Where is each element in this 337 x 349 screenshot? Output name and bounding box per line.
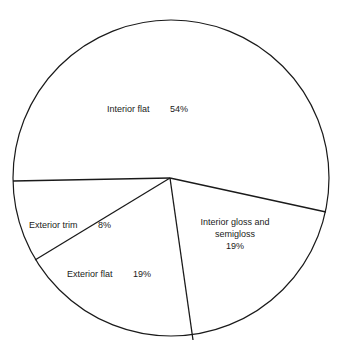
slice-name: Exterior trim [29,220,78,230]
slice-label-interior-flat: Interior flat 54% [107,104,188,114]
slice-name-line1: Interior gloss and [190,216,280,228]
slice-label-exterior-flat: Exterior flat 19% [67,269,151,279]
slice-value: 19% [190,240,280,252]
slice-value: 8% [98,220,111,230]
pie-chart [0,0,337,349]
slice-name: Exterior flat [67,269,113,279]
slice-label-interior-gloss: Interior gloss and semigloss 19% [190,216,280,252]
slice-name-line2: semigloss [190,228,280,240]
slice-label-exterior-trim: Exterior trim 8% [29,220,111,230]
slice-name: Interior flat [107,104,150,114]
slice-value: 54% [170,104,188,114]
slice-value: 19% [133,269,151,279]
